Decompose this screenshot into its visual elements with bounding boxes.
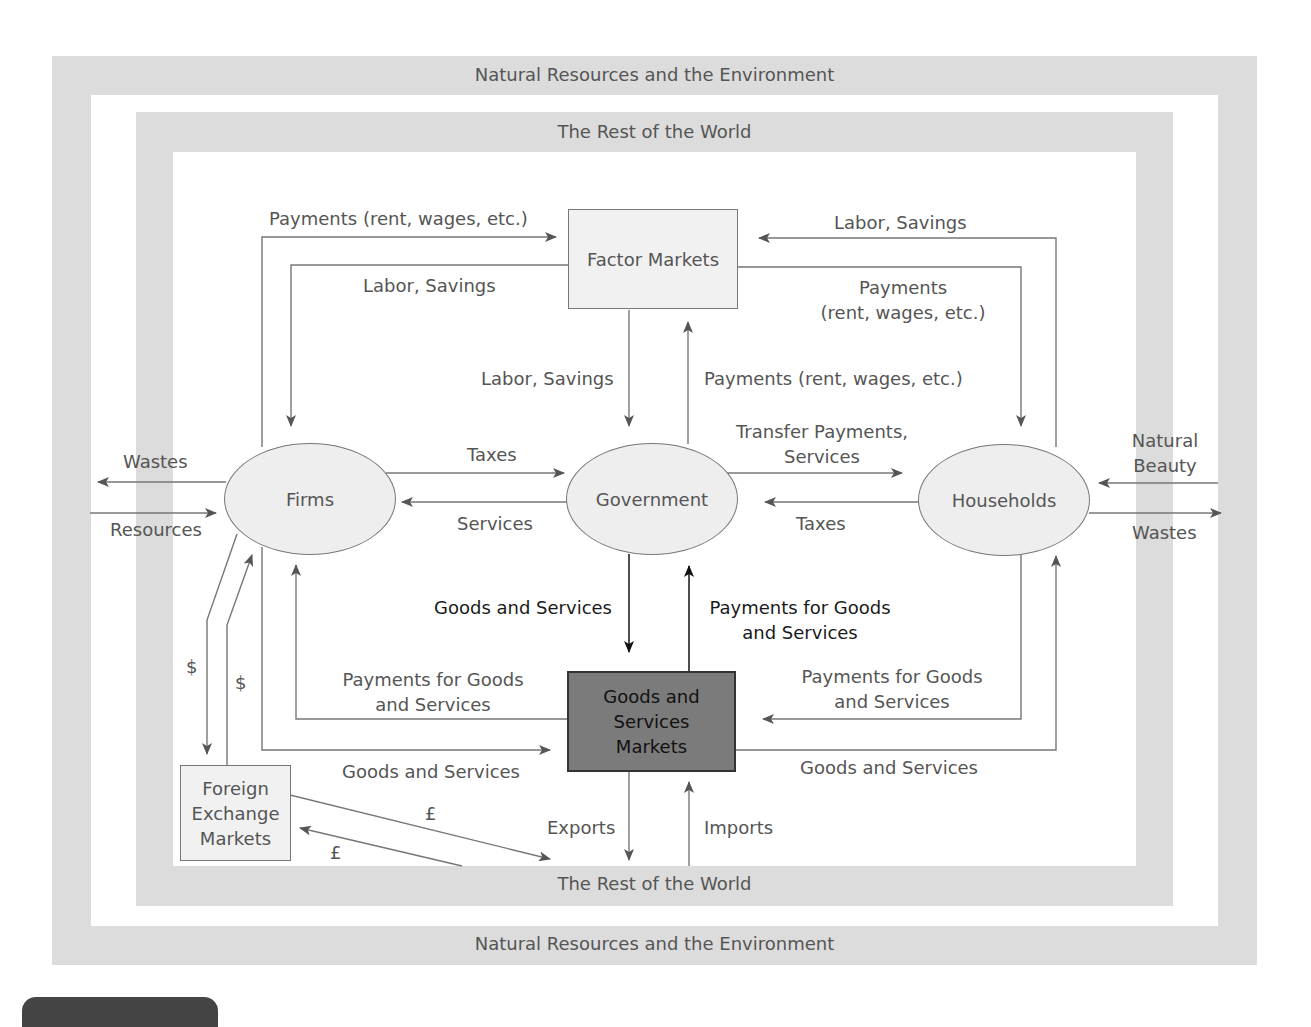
- flow-gov-to-households-line1: Transfer Payments,: [722, 419, 922, 444]
- government-label: Government: [596, 487, 708, 512]
- flow-firms-resources-label: Resources: [110, 517, 202, 542]
- flow-households-to-goods-label: Payments for Goods and Services: [792, 664, 992, 714]
- flow-firms-to-factor-label: Payments (rent, wages, etc.): [269, 206, 528, 231]
- flow-goods-to-firms-line2: and Services: [333, 692, 533, 717]
- flow-households-wastes-label: Wastes: [1132, 520, 1197, 545]
- pound-out-label: £: [425, 801, 436, 826]
- flow-factor-to-households-label: Payments (rent, wages, etc.): [803, 275, 1003, 325]
- flow-natural-beauty-line2: Beauty: [1115, 453, 1215, 478]
- flow-firms-wastes-label: Wastes: [123, 449, 188, 474]
- flow-firms-to-goods-label: Goods and Services: [342, 759, 520, 784]
- foreign-exchange-markets-node: Foreign Exchange Markets: [180, 765, 291, 861]
- flow-households-to-factor-label: Labor, Savings: [834, 210, 967, 235]
- factor-markets-node: Factor Markets: [568, 209, 738, 309]
- flow-gov-to-factor-label: Payments (rent, wages, etc.): [704, 366, 963, 391]
- flow-factor-to-households-line1: Payments: [803, 275, 1003, 300]
- flow-gov-to-firms-label: Services: [457, 511, 533, 536]
- footer-tab-shape: [22, 997, 218, 1027]
- flow-natural-beauty-line1: Natural: [1115, 428, 1215, 453]
- flow-gov-to-households-label: Transfer Payments, Services: [722, 419, 922, 469]
- flow-goods-to-households-label: Goods and Services: [800, 755, 978, 780]
- exports-label: Exports: [547, 815, 615, 840]
- goods-services-markets-node: Goods and Services Markets: [567, 671, 736, 772]
- firms-label: Firms: [286, 487, 334, 512]
- flow-firms-to-gov-label: Taxes: [467, 442, 517, 467]
- flow-goods-to-gov-line1: Payments for Goods: [700, 595, 900, 620]
- flow-goods-to-firms-line1: Payments for Goods: [333, 667, 533, 692]
- government-node: Government: [566, 443, 738, 555]
- goods-services-markets-label: Goods and Services Markets: [592, 684, 712, 759]
- flow-households-to-goods-line2: and Services: [792, 689, 992, 714]
- dollar-out-label: $: [186, 654, 197, 679]
- flow-households-to-gov-label: Taxes: [796, 511, 846, 536]
- households-label: Households: [952, 488, 1057, 513]
- foreign-exchange-markets-label: Foreign Exchange Markets: [186, 776, 286, 851]
- flow-gov-to-households-line2: Services: [722, 444, 922, 469]
- flow-goods-to-gov-line2: and Services: [700, 620, 900, 645]
- dollar-in-label: $: [235, 670, 246, 695]
- flow-goods-to-gov-label: Payments for Goods and Services: [700, 595, 900, 645]
- households-node: Households: [918, 444, 1090, 556]
- flow-households-to-goods-line1: Payments for Goods: [792, 664, 992, 689]
- flow-factor-to-households-line2: (rent, wages, etc.): [803, 300, 1003, 325]
- flow-natural-beauty-label: Natural Beauty: [1115, 428, 1215, 478]
- flow-goods-to-firms-label: Payments for Goods and Services: [333, 667, 533, 717]
- imports-label: Imports: [704, 815, 773, 840]
- flow-factor-to-gov-label: Labor, Savings: [481, 366, 614, 391]
- flow-factor-to-firms-label: Labor, Savings: [363, 273, 496, 298]
- factor-markets-label: Factor Markets: [587, 247, 719, 272]
- flow-gov-to-goods-label: Goods and Services: [434, 595, 612, 620]
- pound-in-label: £: [330, 840, 341, 865]
- firms-node: Firms: [224, 443, 396, 555]
